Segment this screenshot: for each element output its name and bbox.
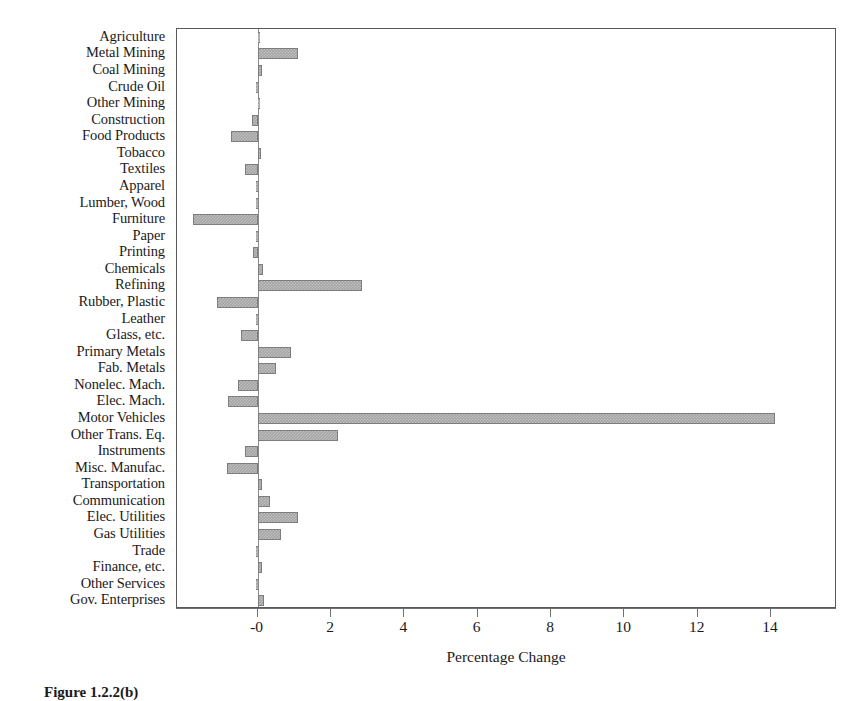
category-label: Misc. Manufac. — [0, 460, 165, 475]
category-label: Nonelec. Mach. — [0, 377, 165, 392]
category-label: Chemicals — [0, 261, 165, 276]
x-axis-tick — [403, 608, 404, 617]
bar — [258, 65, 262, 76]
category-label: Construction — [0, 112, 165, 127]
category-label: Other Trans. Eq. — [0, 427, 165, 442]
x-axis-tick-label: 14 — [762, 619, 778, 635]
category-label: Agriculture — [0, 29, 165, 44]
category-label: Food Products — [0, 128, 165, 143]
bar — [253, 247, 257, 258]
bar — [258, 363, 276, 374]
bar — [258, 280, 363, 291]
x-axis-title: Percentage Change — [176, 648, 836, 666]
bar — [258, 347, 291, 358]
x-axis-tick-label: 10 — [616, 619, 632, 635]
x-axis-tick-label: -0 — [250, 619, 263, 635]
x-axis-tick-label: 4 — [399, 619, 407, 635]
category-label: Trade — [0, 543, 165, 558]
bar — [256, 181, 258, 192]
category-label: Instruments — [0, 443, 165, 458]
category-label: Leather — [0, 311, 165, 326]
x-axis-tick — [697, 608, 698, 617]
category-label: Metal Mining — [0, 45, 165, 60]
bar — [256, 579, 258, 590]
figure-caption: Figure 1.2.2(b) — [44, 684, 138, 701]
category-label: Lumber, Wood — [0, 195, 165, 210]
bar — [258, 148, 261, 159]
category-label: Crude Oil — [0, 79, 165, 94]
bar — [258, 430, 339, 441]
x-axis-tick — [477, 608, 478, 617]
x-axis: -02468101214 — [176, 608, 836, 609]
x-axis-tick-label: 12 — [689, 619, 705, 635]
category-label: Gas Utilities — [0, 526, 165, 541]
x-axis-tick — [330, 608, 331, 617]
bar — [258, 413, 775, 424]
bar — [231, 131, 257, 142]
bar — [258, 98, 260, 109]
bar — [193, 214, 258, 225]
bar — [258, 512, 298, 523]
category-label: Elec. Utilities — [0, 509, 165, 524]
bar — [256, 314, 258, 325]
category-label: Elec. Mach. — [0, 393, 165, 408]
bar — [258, 479, 262, 490]
category-label: Refining — [0, 277, 165, 292]
plot-area — [177, 29, 835, 607]
x-axis-tick-label: 8 — [546, 619, 554, 635]
bar — [256, 546, 258, 557]
bar — [245, 446, 258, 457]
bar — [258, 32, 260, 43]
category-label: Rubber, Plastic — [0, 294, 165, 309]
category-label: Other Services — [0, 576, 165, 591]
bar — [241, 330, 258, 341]
category-label: Motor Vehicles — [0, 410, 165, 425]
category-label: Other Mining — [0, 95, 165, 110]
bar — [245, 164, 258, 175]
x-axis-tick — [770, 608, 771, 617]
bar — [258, 595, 265, 606]
category-label: Finance, etc. — [0, 559, 165, 574]
x-axis-tick — [623, 608, 624, 617]
category-label: Printing — [0, 244, 165, 259]
bar — [258, 48, 298, 59]
category-label: Primary Metals — [0, 344, 165, 359]
category-label: Glass, etc. — [0, 327, 165, 342]
bar — [258, 529, 282, 540]
category-label: Paper — [0, 228, 165, 243]
bar — [258, 562, 263, 573]
bar — [252, 115, 258, 126]
category-label: Fab. Metals — [0, 360, 165, 375]
bar — [217, 297, 257, 308]
bar — [228, 396, 257, 407]
x-axis-tick-label: 2 — [326, 619, 334, 635]
bar — [227, 463, 258, 474]
category-label: Coal Mining — [0, 62, 165, 77]
x-axis-tick — [257, 608, 258, 617]
bar — [256, 198, 258, 209]
bar — [258, 496, 271, 507]
bar — [258, 264, 264, 275]
category-label: Communication — [0, 493, 165, 508]
bar — [256, 82, 258, 93]
bar — [238, 380, 258, 391]
category-label: Transportation — [0, 476, 165, 491]
x-axis-tick — [550, 608, 551, 617]
category-label: Furniture — [0, 211, 165, 226]
category-label: Apparel — [0, 178, 165, 193]
bar — [256, 231, 258, 242]
category-label: Tobacco — [0, 145, 165, 160]
category-label: Gov. Enterprises — [0, 592, 165, 607]
category-label-column: AgricultureMetal MiningCoal MiningCrude … — [0, 28, 165, 608]
x-axis-tick-label: 6 — [473, 619, 481, 635]
category-label: Textiles — [0, 161, 165, 176]
plot-panel — [176, 28, 836, 608]
